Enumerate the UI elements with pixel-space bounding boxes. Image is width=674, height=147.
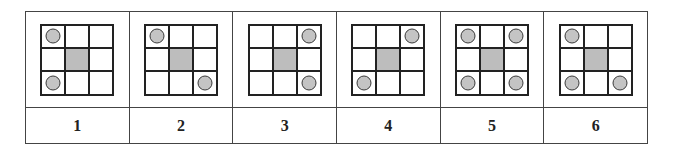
circle-icon: [301, 29, 316, 44]
grid-cell-middle-left: [41, 48, 65, 71]
grid-3x3: [144, 24, 218, 96]
grid-cell-top-left: [352, 25, 376, 48]
circle-icon: [405, 29, 420, 44]
labels-row: 1 2 3 4 5 6: [26, 108, 648, 144]
circle-icon: [301, 75, 316, 90]
option-figure-2[interactable]: [129, 12, 233, 108]
grid-cell-middle-right: [193, 48, 217, 71]
grid-cell-bottom-center: [65, 71, 89, 94]
grid-cell-bottom-left: [560, 71, 584, 94]
circle-icon: [564, 29, 579, 44]
option-figure-1[interactable]: [26, 12, 130, 108]
grid-cell-bottom-left: [456, 71, 480, 94]
grid-cell-top-left: [456, 25, 480, 48]
grid-cell-bottom-right: [297, 71, 321, 94]
circle-icon: [460, 75, 475, 90]
shaded-center-square: [584, 48, 608, 71]
option-figure-5[interactable]: [440, 12, 544, 108]
circle-icon: [46, 29, 61, 44]
grid-cell-bottom-left: [352, 71, 376, 94]
circle-icon: [460, 29, 475, 44]
grid-cell-bottom-center: [273, 71, 297, 94]
option-label-6[interactable]: 6: [544, 108, 648, 144]
option-label-4[interactable]: 4: [336, 108, 440, 144]
circle-icon: [508, 75, 523, 90]
grid-cell-middle-left: [249, 48, 273, 71]
circle-icon: [612, 75, 627, 90]
grid-cell-bottom-center: [376, 71, 400, 94]
grid-cell-bottom-right: [608, 71, 632, 94]
grid-cell-top-right: [400, 25, 424, 48]
grid-cell-bottom-left: [145, 71, 169, 94]
grid-cell-middle-right: [297, 48, 321, 71]
option-label-2[interactable]: 2: [129, 108, 233, 144]
grid-cell-top-center: [480, 25, 504, 48]
grid-cell-top-right: [608, 25, 632, 48]
grid-cell-top-center: [273, 25, 297, 48]
grid-cell-middle-left: [352, 48, 376, 71]
grid-cell-middle-right: [89, 48, 113, 71]
circle-icon: [508, 29, 523, 44]
grid-3x3: [351, 24, 425, 96]
grid-cell-middle-right: [400, 48, 424, 71]
grid-cell-middle-right: [608, 48, 632, 71]
grid-cell-top-left: [145, 25, 169, 48]
grid-cell-top-right: [193, 25, 217, 48]
grid-cell-bottom-right: [89, 71, 113, 94]
option-figure-4[interactable]: [336, 12, 440, 108]
grid-cell-bottom-center: [169, 71, 193, 94]
grid-cell-top-right: [89, 25, 113, 48]
grid-3x3: [559, 24, 633, 96]
grid-cell-top-left: [560, 25, 584, 48]
grid-cell-bottom-right: [193, 71, 217, 94]
grid-cell-middle-left: [145, 48, 169, 71]
grid-cell-middle-right: [504, 48, 528, 71]
grid-cell-top-center: [65, 25, 89, 48]
answer-options-table: 1 2 3 4 5 6: [25, 11, 648, 144]
grid-cell-top-center: [376, 25, 400, 48]
grid-cell-bottom-left: [249, 71, 273, 94]
grid-cell-middle-left: [456, 48, 480, 71]
option-label-3[interactable]: 3: [233, 108, 337, 144]
grid-cell-bottom-center: [480, 71, 504, 94]
circle-icon: [197, 75, 212, 90]
figures-row: [26, 12, 648, 108]
grid-cell-top-left: [249, 25, 273, 48]
grid-cell-top-center: [169, 25, 193, 48]
circle-icon: [564, 75, 579, 90]
circle-icon: [46, 75, 61, 90]
grid-cell-middle-left: [560, 48, 584, 71]
grid-cell-bottom-right: [504, 71, 528, 94]
option-figure-3[interactable]: [233, 12, 337, 108]
option-label-5[interactable]: 5: [440, 108, 544, 144]
grid-cell-top-right: [504, 25, 528, 48]
grid-cell-bottom-left: [41, 71, 65, 94]
option-figure-6[interactable]: [544, 12, 648, 108]
shaded-center-square: [169, 48, 193, 71]
shaded-center-square: [273, 48, 297, 71]
grid-cell-bottom-right: [400, 71, 424, 94]
shaded-center-square: [480, 48, 504, 71]
grid-3x3: [455, 24, 529, 96]
grid-cell-bottom-center: [584, 71, 608, 94]
grid-cell-top-center: [584, 25, 608, 48]
shaded-center-square: [65, 48, 89, 71]
circle-icon: [149, 29, 164, 44]
grid-cell-top-right: [297, 25, 321, 48]
circle-icon: [357, 75, 372, 90]
option-label-1[interactable]: 1: [26, 108, 130, 144]
grid-3x3: [40, 24, 114, 96]
grid-cell-top-left: [41, 25, 65, 48]
grid-3x3: [248, 24, 322, 96]
shaded-center-square: [376, 48, 400, 71]
